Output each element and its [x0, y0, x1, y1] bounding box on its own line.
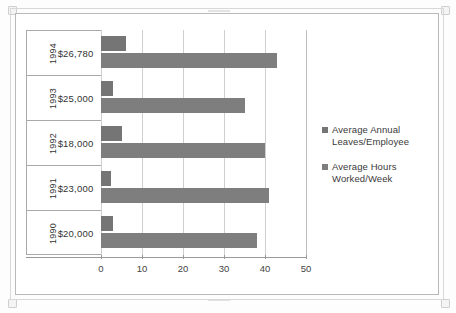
bar-average-annual-leaves	[101, 126, 122, 141]
bar-average-annual-leaves	[101, 36, 126, 51]
x-axis-tick-label: 10	[127, 263, 157, 274]
bar-average-hours-worked	[101, 143, 265, 158]
bar-average-annual-leaves	[101, 171, 111, 186]
category-salary-label: $18,000	[49, 121, 102, 166]
legend-label: Average Annual Leaves/Employee	[332, 124, 409, 148]
bar-group	[101, 165, 306, 210]
bar-chart: 1994$26,7801993$25,0001992$18,0001991$23…	[0, 0, 456, 313]
bar-average-annual-leaves	[101, 216, 113, 231]
bar-average-annual-leaves	[101, 81, 113, 96]
chart-legend: Average Annual Leaves/EmployeeAverage Ho…	[322, 124, 440, 198]
bar-group	[101, 30, 306, 75]
bar-average-hours-worked	[101, 53, 277, 68]
axis-tick	[183, 255, 184, 259]
legend-item: Average Hours Worked/Week	[322, 161, 440, 185]
x-axis-tick-label: 40	[250, 263, 280, 274]
axis-tick	[224, 255, 225, 259]
gridline	[306, 30, 307, 255]
legend-label: Average Hours Worked/Week	[332, 161, 397, 185]
category-salary-label: $25,000	[49, 76, 102, 121]
category-row: 1993$25,000	[27, 76, 101, 121]
legend-swatch-icon	[322, 127, 328, 133]
axis-tick	[101, 255, 102, 259]
plot-area	[101, 30, 306, 255]
bar-group	[101, 120, 306, 165]
bar-group	[101, 210, 306, 255]
legend-item: Average Annual Leaves/Employee	[322, 124, 440, 148]
category-row: 1991$23,000	[27, 166, 101, 211]
category-salary-label: $20,000	[49, 211, 102, 256]
category-row: 1990$20,000	[27, 211, 101, 256]
chart-page: 1994$26,7801993$25,0001992$18,0001991$23…	[0, 0, 456, 313]
legend-swatch-icon	[322, 164, 328, 170]
category-row: 1992$18,000	[27, 121, 101, 166]
bar-average-hours-worked	[101, 98, 245, 113]
axis-tick	[306, 255, 307, 259]
category-salary-label: $23,000	[49, 166, 102, 211]
bar-average-hours-worked	[101, 188, 269, 203]
x-axis-tick-label: 0	[86, 263, 116, 274]
category-row: 1994$26,780	[27, 31, 101, 76]
bar-average-hours-worked	[101, 233, 257, 248]
category-salary-label: $26,780	[49, 31, 102, 76]
category-axis-table: 1994$26,7801993$25,0001992$18,0001991$23…	[26, 30, 101, 255]
axis-tick	[265, 255, 266, 259]
x-axis-tick-label: 50	[291, 263, 321, 274]
axis-tick	[142, 255, 143, 259]
x-axis-tick-label: 20	[168, 263, 198, 274]
x-axis-tick-label: 30	[209, 263, 239, 274]
bar-group	[101, 75, 306, 120]
